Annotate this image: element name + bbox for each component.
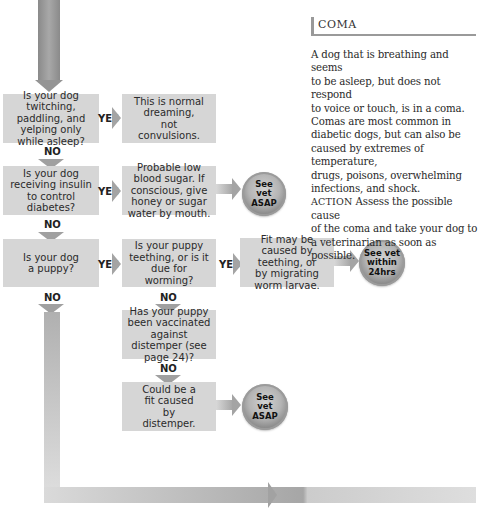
to-vet-arrow: [216, 397, 240, 413]
incoming-arrow-shaft: [38, 0, 60, 80]
see-vet-asap-badge: See vet ASAP: [242, 384, 288, 430]
outcome-distemper: Could be a fit caused by distemper.: [122, 382, 216, 431]
continuation-arrow: [44, 487, 476, 503]
to-vet-arrow: [216, 181, 240, 197]
no-label: NO: [160, 363, 177, 374]
section-marker: [311, 17, 314, 34]
question-puppy: Is your dog a puppy?: [3, 239, 99, 287]
no-label: NO: [44, 292, 61, 303]
see-vet-asap-badge: See vet ASAP: [242, 172, 286, 216]
question-twitching: Is your dog twitching, paddling, and yel…: [3, 94, 99, 143]
no-label: NO: [44, 219, 61, 230]
question-teething: Is your puppy teething, or is it due for…: [122, 239, 216, 287]
question-insulin: Is your dog receiving insulin to control…: [3, 166, 99, 215]
outcome-normal-dreaming: This is normal dreaming, not convulsions…: [122, 94, 216, 143]
coma-description: A dog that is breathing and seems to be …: [311, 48, 481, 263]
action-label: ACTION: [311, 196, 353, 207]
no-label: NO: [44, 146, 61, 157]
coma-heading: COMA: [318, 18, 357, 31]
no-label: NO: [160, 292, 177, 303]
question-vaccinated: Has your puppy been vaccinated against d…: [122, 310, 216, 359]
yes-arrow: [112, 256, 122, 272]
yes-arrow: [112, 183, 122, 199]
outcome-low-blood-sugar: Probable low blood sugar. If conscious, …: [122, 166, 216, 215]
yes-arrow: [112, 110, 122, 126]
continuation-arrow-head: [268, 482, 277, 508]
heading-rule: [311, 34, 476, 36]
puppy-no-path: [44, 312, 60, 503]
